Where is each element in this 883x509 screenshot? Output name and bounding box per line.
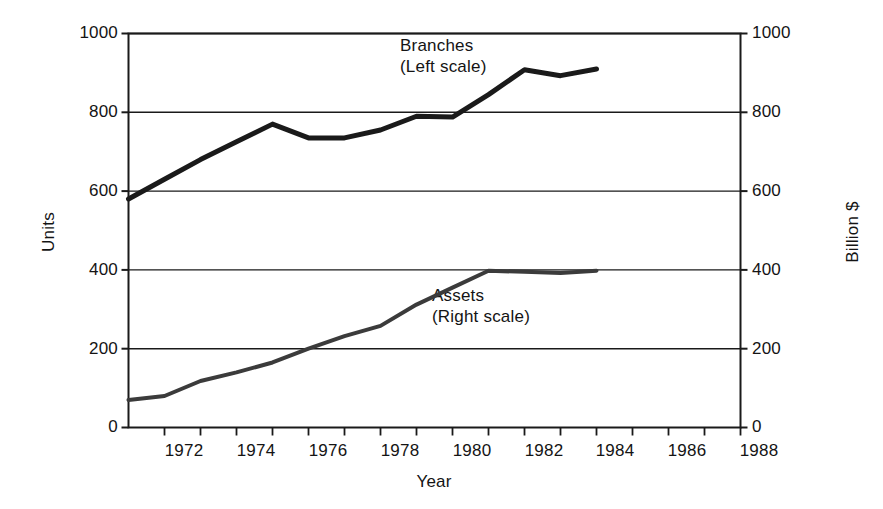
plot-area (0, 0, 883, 509)
series-line-assets (129, 271, 597, 400)
plot-frame (129, 34, 741, 428)
chart-figure: 1000 800 600 400 200 0 1000 800 600 400 … (0, 0, 883, 509)
series-line-branches (129, 69, 597, 199)
